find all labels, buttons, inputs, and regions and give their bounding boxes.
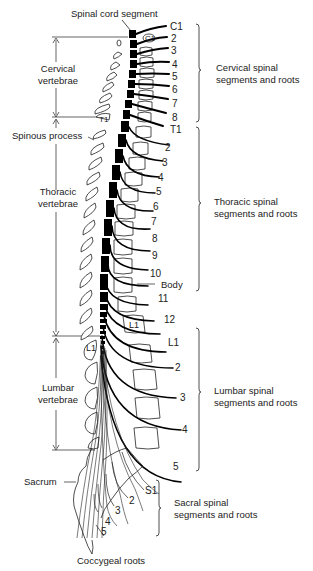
root-number-l5: 5 — [173, 461, 179, 472]
root-number-c3: 3 — [171, 45, 177, 56]
l1-body-label: L1 — [129, 320, 139, 331]
cervical-group-line2: segments and roots — [216, 74, 299, 86]
root-number-t9: 9 — [152, 250, 158, 261]
spinal-cord-segment-label: Spinal cord segment — [71, 8, 158, 20]
sacral-group-line2: segments and roots — [174, 509, 257, 521]
root-number-t4: 4 — [158, 172, 164, 183]
root-number-t2: 2 — [165, 142, 171, 153]
root-number-t12: 12 — [164, 314, 175, 325]
root-number-t11: 11 — [158, 293, 168, 304]
root-number-s1: S1 — [145, 485, 157, 496]
t1-spinous-label: T1 — [99, 114, 108, 125]
root-number-l3: 3 — [180, 392, 186, 403]
root-number-c5: 5 — [172, 71, 178, 82]
thoracic-group-line2: segments and roots — [214, 208, 297, 220]
root-number-l4: 4 — [182, 424, 188, 435]
lumbar-vertebrae-line1: Lumbar — [30, 382, 86, 394]
root-number-s5: 5 — [101, 526, 107, 537]
thoracic-group-line1: Thoracic spinal — [214, 196, 297, 208]
cervical-group-label: Cervical spinal segments and roots — [216, 62, 299, 86]
root-number-c2: 2 — [171, 33, 177, 44]
sacral-group-label: Sacral spinal segments and roots — [174, 497, 257, 521]
root-number-s3: 3 — [115, 505, 121, 516]
root-number-t3: 3 — [162, 157, 168, 168]
root-number-t5: 5 — [156, 186, 162, 197]
lumbar-group-line1: Lumbar spinal — [214, 385, 297, 397]
root-number-l2: 2 — [175, 362, 181, 373]
root-number-c7: 7 — [172, 98, 178, 109]
root-number-t8: 8 — [152, 233, 158, 244]
body-label: Body — [161, 279, 183, 291]
spinal-cord-segment-leader — [122, 20, 131, 31]
root-number-t7: 7 — [151, 216, 157, 227]
root-number-s2: 2 — [129, 495, 135, 506]
cervical-vertebrae-label: Cervical vertebrae — [30, 63, 86, 87]
thoracic-vertebrae-line2: vertebrae — [30, 198, 86, 210]
root-number-t6: 6 — [153, 201, 159, 212]
root-number-t10: 10 — [150, 268, 161, 279]
cervical-vertebrae-line2: vertebrae — [30, 75, 86, 87]
root-number-c1: C1 — [170, 21, 183, 32]
coccygeal-roots-label: Coccygeal roots — [77, 555, 145, 567]
l1-spinous-label: L1 — [86, 343, 96, 354]
sacral-group-line1: Sacral spinal — [174, 497, 257, 509]
thoracic-vertebrae-label: Thoracic vertebrae — [30, 186, 86, 210]
root-number-t1: T1 — [170, 124, 182, 135]
lumbar-group-line2: segments and roots — [214, 397, 297, 409]
cervical-group-line1: Cervical spinal — [216, 62, 299, 74]
root-number-c6: 6 — [172, 84, 178, 95]
lumbar-vertebrae-line2: vertebrae — [30, 394, 86, 406]
thoracic-vertebrae-line1: Thoracic — [30, 186, 86, 198]
spinous-process-label: Spinous process — [12, 130, 82, 142]
c1-body-label: C1 — [145, 33, 155, 44]
root-number-l1: L1 — [168, 337, 179, 348]
thoracic-group-label: Thoracic spinal segments and roots — [214, 196, 297, 220]
cervical-vertebrae-line1: Cervical — [30, 63, 86, 75]
sacrum-label: Sacrum — [24, 476, 57, 488]
lumbar-vertebrae-label: Lumbar vertebrae — [30, 382, 86, 406]
lumbar-group-label: Lumbar spinal segments and roots — [214, 385, 297, 409]
root-number-c8: 8 — [172, 112, 178, 123]
sacral-roots — [94, 452, 144, 536]
root-number-c4: 4 — [172, 59, 178, 70]
